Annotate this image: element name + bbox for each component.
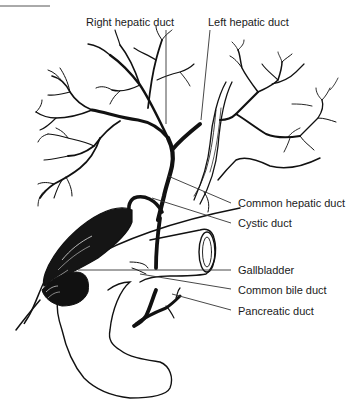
- leader-left-hepatic: [201, 30, 210, 120]
- leader-common-hepatic: [168, 176, 231, 203]
- leader-pancreatic: [172, 294, 231, 310]
- biliary-tree-diagram: Right hepatic duct Left hepatic duct Com…: [0, 0, 358, 405]
- left-hepatic-duct-stem: [172, 124, 200, 150]
- label-left-hepatic-duct: Left hepatic duct: [208, 16, 289, 29]
- label-pancreatic-duct: Pancreatic duct: [238, 305, 314, 318]
- label-gallbladder: Gallbladder: [238, 264, 294, 277]
- label-cystic-duct: Cystic duct: [238, 217, 292, 230]
- left-hepatic-branches: [220, 40, 338, 152]
- ligament-band: [194, 82, 320, 212]
- label-right-hepatic-duct: Right hepatic duct: [86, 16, 174, 29]
- label-common-hepatic-duct: Common hepatic duct: [238, 197, 345, 210]
- label-common-bile-duct: Common bile duct: [238, 284, 327, 297]
